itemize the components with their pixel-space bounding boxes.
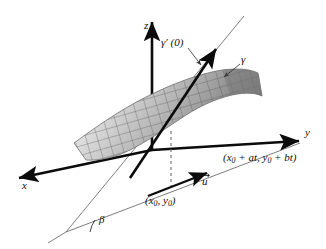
line-point-label: (x0 + at, y0 + bt): [223, 152, 297, 165]
line-point-plus-a: + at,: [236, 151, 263, 163]
y-axis-label: y: [305, 127, 310, 138]
x-axis-label: x: [22, 180, 27, 191]
line-point-close: ): [293, 151, 297, 163]
y-axis-line: [152, 141, 299, 150]
base-point-close: ): [172, 194, 176, 206]
gamma-label: γ: [241, 54, 245, 65]
gamma-prime-leader: [188, 48, 201, 65]
construction-lines: [48, 16, 300, 243]
beta-vertex-tail: [48, 232, 66, 243]
z-axis-label: z: [144, 20, 148, 31]
figure-canvas: z y x γ′ (0) γ β u (x0, y0) (x0 + at, y0…: [0, 0, 326, 249]
u-vector-label: u: [202, 176, 208, 187]
beta-label: β: [99, 214, 104, 225]
line-point-plus-b: + bt: [271, 151, 292, 163]
gamma-prime-label: γ′ (0): [161, 37, 183, 48]
u-vector-arrow: [148, 173, 207, 196]
vector-arrow-accent-icon: [201, 172, 210, 177]
base-point-label: (x0, y0): [145, 195, 176, 208]
